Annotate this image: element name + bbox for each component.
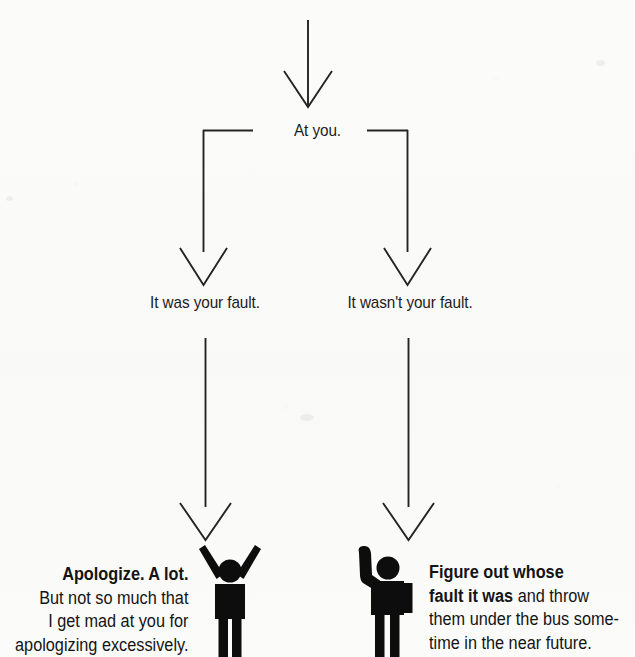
- outcome-right-line-2: fault it was and throw: [429, 585, 619, 609]
- outcome-block-right: Figure out whose fault it was and throw …: [355, 545, 633, 657]
- left-outcome-arrow-icon: [180, 338, 231, 540]
- outcome-left-line-4: apologizing excessively.: [15, 634, 188, 657]
- outcome-left-line-3: I get mad at you for: [15, 610, 188, 634]
- outcome-left-line-1: Apologize. A lot.: [62, 564, 188, 584]
- right-branch-arrow-icon: [384, 130, 431, 285]
- outcome-right-line-4: time in the near future.: [429, 632, 619, 656]
- node-label-at-you: At you.: [32, 121, 604, 141]
- stick-figure-arm-pointing-icon: [355, 545, 419, 657]
- right-outcome-arrow-icon: [383, 338, 434, 540]
- flowchart-canvas: At you. It was your fault. It wasn't you…: [0, 0, 635, 657]
- outcome-left-line-2: But not so much that: [15, 587, 188, 611]
- entry-arrow-icon: [284, 20, 332, 107]
- scan-smudge: [6, 196, 13, 201]
- stick-figure-arms-raised-icon: [198, 545, 262, 657]
- outcome-right-text: Figure out whose fault it was and throw …: [429, 561, 619, 657]
- outcome-left-text: Apologize. A lot. But not so much that I…: [15, 563, 188, 657]
- scan-smudge: [596, 60, 605, 66]
- scan-smudge: [300, 414, 314, 421]
- left-branch-arrow-icon: [180, 130, 227, 285]
- node-label-it-wasnt-your-fault: It wasn't your fault.: [325, 293, 496, 313]
- outcome-right-line-3: them under the bus some-: [429, 608, 619, 632]
- outcome-block-left: Apologize. A lot. But not so much that I…: [2, 545, 262, 657]
- outcome-right-line-1: Figure out whose: [429, 562, 564, 582]
- node-label-it-was-your-fault: It was your fault.: [120, 293, 291, 313]
